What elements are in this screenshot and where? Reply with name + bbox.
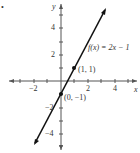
function-line [35,10,105,143]
point-label-1-1: (1, 1) [78,66,95,74]
x-axis-label: x [134,86,138,94]
function-label: f(x) = 2x − 1 [88,44,129,52]
x-tick-label: −2 [29,85,38,93]
point-1-1 [72,66,76,70]
x-tick-label: 4 [113,85,117,93]
point-0-m1 [59,92,63,96]
y-tick-label: −2 [45,104,54,112]
y-tick-label: −4 [45,130,54,138]
y-tick-label: 2 [51,51,55,59]
graph-canvas [0,0,140,153]
point-label-0-m1: (0, −1) [64,94,86,102]
y-axis-label: y [52,3,56,11]
y-tick-label: 4 [51,24,55,32]
bullet: • [1,4,4,12]
x-tick-label: 2 [86,85,90,93]
